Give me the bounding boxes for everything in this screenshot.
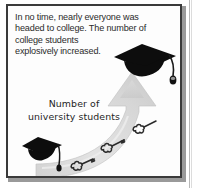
page-edge-line <box>189 0 190 188</box>
narration-line-1: In no time, nearly everyone was <box>15 12 167 23</box>
caption-line-1: Number of <box>14 98 134 111</box>
dust-puff-icon <box>66 118 174 176</box>
caption-line-2: university students <box>14 111 134 124</box>
narration-text: In no time, nearly everyone was headed t… <box>15 12 167 58</box>
narration-line-3: college students <box>15 35 167 46</box>
chart-caption: Number of university students <box>14 98 134 123</box>
illustration-page: In no time, nearly everyone was headed t… <box>0 0 198 188</box>
graduation-cap-icon <box>20 132 72 176</box>
narration-line-4: explosively increased. <box>15 46 167 57</box>
illustration-canvas: In no time, nearly everyone was headed t… <box>8 6 180 176</box>
narration-line-2: headed to college. The number of <box>15 23 167 34</box>
page-edge-line-shadow <box>191 0 192 188</box>
illustration-frame: In no time, nearly everyone was headed t… <box>6 4 182 178</box>
